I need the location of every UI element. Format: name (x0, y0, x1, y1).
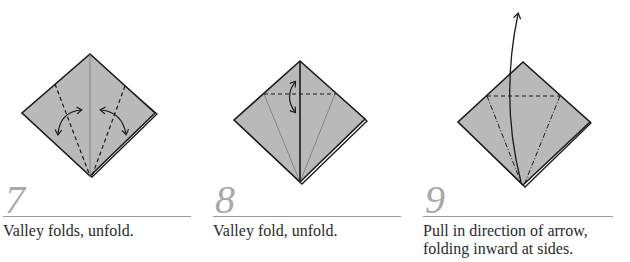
step-7-rule (3, 216, 191, 217)
step-7-diagram (22, 54, 157, 177)
step-8-caption: Valley fold, unfold. (213, 222, 413, 240)
step-9-caption: Pull in direction of arrow, folding inwa… (423, 222, 628, 258)
step-9-caption-line-1: Pull in direction of arrow, (423, 222, 628, 240)
step-number-8: 8 (215, 180, 235, 220)
paper-square (22, 54, 155, 176)
step-8-diagram (234, 61, 367, 184)
step-7-caption: Valley folds, unfold. (3, 222, 203, 240)
step-9-diagram (458, 14, 591, 187)
paper-square (458, 62, 590, 185)
step-8-rule (213, 216, 401, 217)
step-number-9: 9 (425, 180, 445, 220)
step-number-7: 7 (5, 180, 25, 220)
step-9-rule (423, 216, 613, 217)
step-9-caption-line-2: folding inward at sides. (423, 240, 628, 258)
